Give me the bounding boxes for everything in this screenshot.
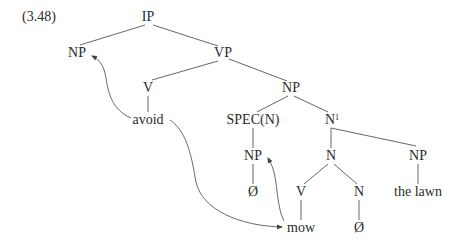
node-n-bar-superscript: 1	[335, 113, 339, 122]
node-empty-spec: Ø	[248, 184, 258, 200]
edge-vp-np	[229, 59, 287, 81]
syntax-tree-diagram: (3.48) IP NP VP V NP avoid SPEC(N) N1 NP…	[0, 0, 462, 243]
node-v-main: V	[143, 80, 153, 96]
arrow-mow-to-np-spec	[268, 158, 284, 221]
node-empty-n: Ø	[354, 220, 364, 236]
node-vp: VP	[214, 45, 232, 61]
arrow-avoid-to-subject	[92, 56, 131, 118]
edge-nbar-np	[331, 128, 416, 146]
node-avoid: avoid	[132, 112, 163, 128]
node-n-empty: N	[354, 184, 364, 200]
node-spec-n: SPEC(N)	[227, 112, 280, 128]
example-number: (3.48)	[22, 9, 56, 25]
node-the-lawn: the lawn	[394, 184, 442, 200]
edge-n-v	[304, 164, 328, 184]
edge-np-nbar	[294, 96, 328, 112]
edge-n-n	[334, 164, 357, 184]
arrow-avoid-to-mow	[170, 120, 282, 227]
node-n-bar-label: N	[325, 112, 335, 127]
node-n-bar: N1	[325, 112, 339, 128]
edge-ip-np	[80, 25, 145, 45]
edge-vp-v	[152, 61, 218, 80]
node-ip: IP	[142, 9, 154, 25]
node-mow: mow	[287, 220, 315, 236]
node-v-mow: V	[296, 184, 306, 200]
edge-ip-vp	[153, 25, 218, 46]
node-np-subject: NP	[68, 45, 86, 61]
edge-np-spec	[257, 96, 288, 112]
node-np-object: NP	[282, 80, 300, 96]
node-n-compound: N	[326, 148, 336, 164]
node-np-lawn: NP	[409, 148, 427, 164]
node-np-spec: NP	[244, 148, 262, 164]
